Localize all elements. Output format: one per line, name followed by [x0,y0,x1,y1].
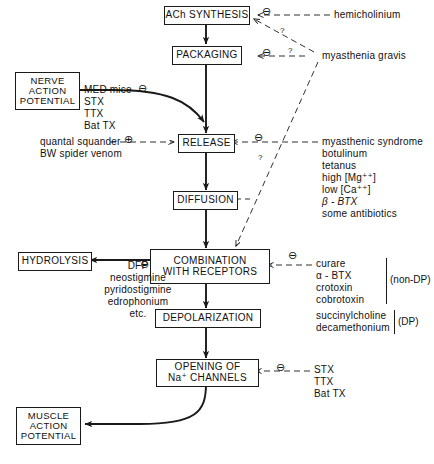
excite-icon-quantal-squander: ⊕ [124,134,133,145]
node-label: PACKAGING [176,50,237,61]
list-item: botulinum [322,148,423,160]
label-dp: (DP) [398,316,419,327]
node-label-line3: POTENTIAL [20,96,76,106]
list-item: Bat TX [84,120,132,132]
edge-opening-to-muscle-ap [85,384,206,424]
node-diffusion[interactable]: DIFFUSION [173,191,238,210]
node-muscle-action-potential[interactable]: MUSCLE ACTION POTENTIAL [16,407,81,445]
list-item: STX [314,364,346,376]
brace-dp [394,310,395,334]
question-mark-packaging-link: ? [288,46,292,55]
list-item: DFP [96,260,180,272]
list-item: cobrotoxin [316,294,364,306]
diagram-canvas: ACh SYNTHESIS PACKAGING RELEASE DIFFUSIO… [0,0,434,464]
list-item: TTX [84,108,132,120]
list-item: pyridostigmine [96,284,180,296]
list-item: decamethonium [316,322,390,334]
node-release[interactable]: RELEASE [178,134,235,153]
list-item: STX [84,96,132,108]
list-receptor-blockers-dp: succinylcholine decamethonium [316,310,390,334]
list-receptor-blockers-nondp: curare α - BTX crotoxin cobrotoxin [316,258,364,306]
list-item: TTX [314,376,346,388]
question-mark-receptors-link: ? [258,153,262,162]
list-item: tetanus [322,160,423,172]
inhibit-icon-synthesis: ⊖ [262,6,271,17]
node-label: ACh SYNTHESIS [166,10,249,21]
list-item: succinylcholine [316,310,390,322]
list-na-channel-blockers: STX TTX Bat TX [314,364,346,400]
list-item: etc. [96,308,180,320]
node-label: HYDROLYSIS [22,256,89,267]
list-item: neostigmine [96,272,180,284]
list-item: some antibiotics [322,208,423,220]
list-item: β - BTX [322,196,423,208]
node-packaging[interactable]: PACKAGING [172,46,242,65]
question-mark-synthesis-link: ? [280,26,284,35]
edge-mg-receptors-branch [236,62,318,246]
node-opening-na-channels[interactable]: OPENING OF Na⁺ CHANNELS [156,359,259,387]
node-label: RELEASE [182,138,230,149]
node-label-line2: Na⁺ CHANNELS [168,373,247,384]
list-item: curare [316,258,364,270]
label-hemicholinium: hemicholinium [334,9,401,21]
brace-nondp [386,258,387,304]
list-item: crotoxin [316,282,364,294]
node-label: DIFFUSION [177,195,234,206]
node-hydrolysis[interactable]: HYDROLYSIS [18,252,92,271]
connector-layer [0,0,434,464]
list-item: edrophonium [96,296,180,308]
node-label-line1: COMBINATION [173,256,246,267]
list-item: myasthenic syndrome [322,136,423,148]
inhibit-icon-hydrolysis: ⊖ [140,259,149,270]
list-item: α - BTX [316,270,364,282]
list-item: low [Ca⁺⁺] [322,184,423,196]
inhibit-icon-receptors: ⊖ [288,250,297,261]
label-myasthenia-gravis: myasthenia gravis [322,50,406,62]
node-ach-synthesis[interactable]: ACh SYNTHESIS [164,6,250,25]
node-label-line3: POTENTIAL [21,431,77,441]
label-bw-spider-venom: BW spider venom [40,148,122,160]
list-hydrolysis-inhibitors: DFP neostigmine pyridostigmine edrophoni… [96,260,180,320]
list-release-inhibitors: myasthenic syndrome botulinum tetanus hi… [322,136,423,220]
inhibit-icon-release: ⊖ [254,132,263,143]
list-item: MED mice [84,84,132,96]
inhibit-icon-na-channels: ⊖ [276,362,285,373]
label-quantal-squander: quantal squander [40,136,121,148]
list-item: high [Mg⁺⁺] [322,172,423,184]
list-item: Bat TX [314,388,346,400]
list-nerve-ap-blockers: MED mice STX TTX Bat TX [84,84,132,132]
label-non-dp: (non-DP) [390,274,431,285]
node-nerve-action-potential[interactable]: NERVE ACTION POTENTIAL [15,72,80,110]
inhibit-icon-nerve-ap: ⊖ [138,83,147,94]
inhibit-icon-packaging: ⊖ [262,47,271,58]
